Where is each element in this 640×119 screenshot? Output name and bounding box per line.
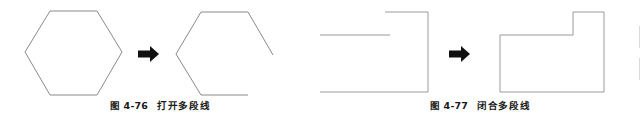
open-polyline <box>320 12 428 92</box>
figure-4-76-canvas <box>0 0 320 100</box>
closed-polyline <box>500 12 604 92</box>
closed-hexagon <box>25 11 122 95</box>
figure-4-77: 图 4-77闭合多段线 <box>320 0 640 119</box>
open-hexagon <box>176 12 273 95</box>
figure-4-77-canvas <box>320 0 640 100</box>
arrow-right-icon <box>449 46 470 62</box>
figure-4-77-caption-number: 图 4-77 <box>430 100 468 111</box>
figure-4-77-caption-text: 闭合多段线 <box>477 100 530 111</box>
figure-4-76-caption-number: 图 4-76 <box>110 100 148 111</box>
figure-4-76-caption: 图 4-76打开多段线 <box>0 99 320 112</box>
figure-sheet: 图 4-76打开多段线 图 4-77闭合多段线 <box>0 0 640 119</box>
arrow-right-icon <box>138 46 159 62</box>
figure-4-77-caption: 图 4-77闭合多段线 <box>320 99 640 112</box>
figure-4-76-caption-text: 打开多段线 <box>157 100 210 111</box>
figure-4-76: 图 4-76打开多段线 <box>0 0 320 119</box>
